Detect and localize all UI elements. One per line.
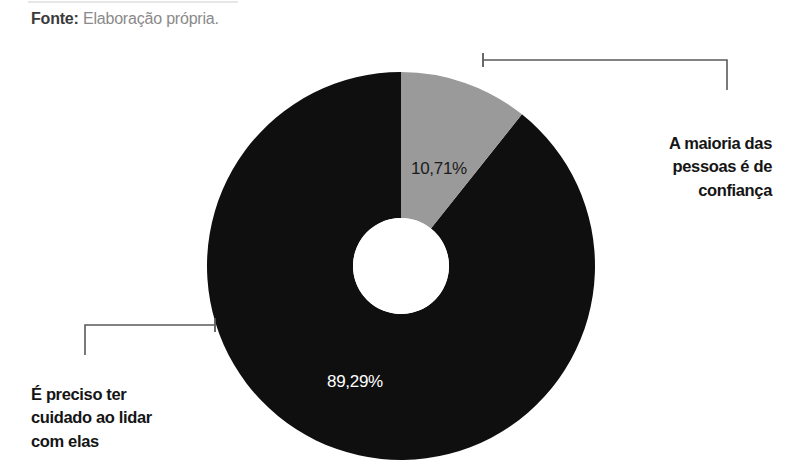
source-label: Fonte: [31,10,79,27]
callout-right-line-3: confiança [560,179,772,202]
leader-line-left [85,325,215,355]
callout-label-confianca: A maioria das pessoas é de confiança [560,132,772,202]
source-value: Elaboração própria. [83,10,219,27]
donut-hole [353,218,449,314]
callout-label-cuidado: É preciso ter cuidado ao lidar com elas [31,383,261,453]
callout-right-line-2: pessoas é de [560,155,772,178]
callout-left-line-2: cuidado ao lidar [31,406,261,429]
leader-line-right [483,60,727,90]
figure-container: Fonte: Elaboração própria. 10,71% 89,29%… [0,0,799,467]
callout-right-line-1: A maioria das [560,132,772,155]
top-divider-rule [28,1,238,3]
callout-left-line-3: com elas [31,430,261,453]
slice-value-confianca: 10,71% [411,159,467,179]
donut-chart: 10,71% 89,29% A maioria das pessoas é de… [0,36,799,467]
source-caption: Fonte: Elaboração própria. [31,10,219,28]
callout-left-line-1: É preciso ter [31,383,261,406]
slice-value-cuidado: 89,29% [327,372,383,392]
